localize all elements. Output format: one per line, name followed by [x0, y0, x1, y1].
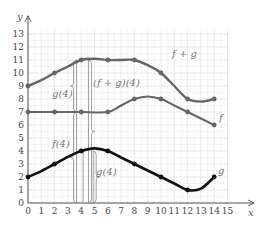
data-point — [212, 123, 217, 128]
data-point — [132, 162, 137, 167]
data-point — [52, 110, 57, 115]
data-point — [185, 188, 190, 193]
data-point — [79, 58, 84, 63]
data-point — [26, 110, 31, 115]
data-point — [105, 110, 110, 115]
data-point — [159, 71, 164, 76]
y-tick-label: 4 — [18, 146, 24, 156]
x-tick-label: 15 — [222, 206, 234, 216]
data-point — [26, 84, 31, 89]
x-tick-label: 10 — [155, 206, 167, 216]
x-tick-label: 13 — [195, 206, 207, 216]
annotation-f4: f(4) — [51, 138, 70, 149]
y-tick-label: 3 — [18, 159, 24, 169]
y-tick-label: 12 — [13, 42, 24, 52]
data-point — [212, 175, 217, 180]
y-tick-label: 1 — [18, 185, 24, 195]
data-point — [105, 58, 110, 63]
y-axis-label: y — [16, 11, 23, 22]
data-point — [185, 110, 190, 115]
y-tick-label: 2 — [18, 172, 24, 182]
x-tick-label: 9 — [145, 206, 151, 216]
data-point — [132, 58, 137, 63]
data-point — [212, 97, 217, 102]
y-tick-label: 6 — [18, 120, 24, 130]
annotation-fg4: (f + g)(4) — [93, 77, 140, 88]
y-tick-label: 13 — [13, 29, 25, 39]
series-label-f: f — [218, 112, 225, 123]
x-tick-label: 12 — [182, 206, 193, 216]
y-tick-label: 11 — [13, 55, 24, 65]
x-tick-label: 8 — [132, 206, 138, 216]
annotation-g4-upper: g(4) — [52, 88, 73, 99]
y-tick-label: 7 — [18, 107, 24, 117]
x-tick-label: 3 — [65, 206, 71, 216]
y-tick-label: 9 — [18, 81, 24, 91]
data-point — [79, 149, 84, 154]
data-point — [185, 97, 190, 102]
data-point — [52, 71, 57, 76]
x-axis-label: x — [248, 207, 254, 218]
y-tick-label: 0 — [18, 198, 24, 208]
data-point — [132, 97, 137, 102]
x-tick-label: 14 — [208, 206, 220, 216]
x-tick-label: 7 — [118, 206, 124, 216]
annotation-g4-lower: g(4) — [96, 166, 117, 177]
series-label-f-plus-g: f + g — [171, 48, 197, 59]
y-tick-label: 8 — [18, 94, 24, 104]
function-sum-chart: 0123456789101112131415012345678910111213… — [0, 0, 269, 230]
data-point — [159, 175, 164, 180]
data-point — [79, 110, 84, 115]
axes — [25, 16, 254, 206]
x-tick-label: 6 — [105, 206, 111, 216]
series-label-g: g — [218, 165, 224, 176]
x-tick-label: 4 — [78, 206, 84, 216]
data-point — [159, 97, 164, 102]
x-tick-label: 2 — [52, 206, 58, 216]
y-tick-label: 10 — [13, 68, 25, 78]
x-tick-label: 5 — [92, 206, 98, 216]
data-point — [52, 162, 57, 167]
x-tick-label: 11 — [169, 206, 180, 216]
x-tick-label: 1 — [38, 206, 44, 216]
data-point — [26, 175, 31, 180]
data-point — [105, 149, 110, 154]
y-tick-label: 5 — [18, 133, 24, 143]
x-tick-label: 0 — [25, 206, 31, 216]
